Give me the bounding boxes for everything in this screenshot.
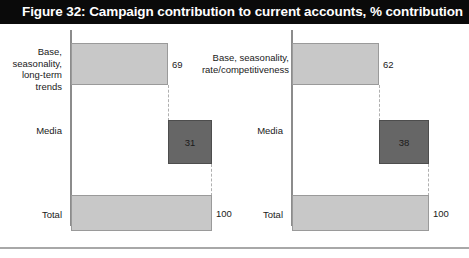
right-value-total: 100 [433,208,449,219]
right-bar-base [292,43,379,85]
cat-line: Total [235,209,283,221]
cat-line: long-term [0,69,62,81]
right-category-label-base: Base, seasonality, rate/competitiveness [197,52,289,75]
cat-line: seasonality, [0,58,62,70]
right-value-base: 62 [383,59,394,70]
cat-line: Total [0,209,62,221]
charts-area: Base, seasonality, long-term trends 69 M… [0,24,469,234]
page-title: Figure 32: Campaign contribution to curr… [22,2,463,22]
right-bar-total [292,195,429,231]
footer-divider [0,247,469,249]
right-bar-media: 38 [379,120,429,164]
chart-panel-right: Base, seasonality, rate/competitiveness … [235,24,469,234]
left-bar-total [71,195,212,231]
right-connector-base-to-media [379,85,380,121]
left-bar-media: 31 [168,120,212,164]
cat-line: trends [0,81,62,93]
cat-line: rate/competitiveness [197,64,289,76]
left-category-label-total: Total [0,209,62,221]
left-connector-base-to-media [168,85,169,121]
left-value-media: 31 [169,137,211,148]
figure-title-bar: Figure 32: Campaign contribution to curr… [0,0,469,24]
left-category-label-base: Base, seasonality, long-term trends [0,46,62,92]
right-connector-media-to-total [428,164,429,196]
left-bar-base [71,43,168,85]
figure-container: Figure 32: Campaign contribution to curr… [0,0,469,258]
right-category-label-media: Media [235,125,283,137]
right-value-media: 38 [380,137,428,148]
left-connector-media-to-total [211,164,212,196]
left-value-total: 100 [216,208,232,219]
left-category-label-media: Media [0,125,62,137]
left-value-base: 69 [172,59,183,70]
right-category-label-total: Total [235,209,283,221]
cat-line: Base, [0,46,62,58]
cat-line: Base, seasonality, [197,52,289,64]
cat-line: Media [235,125,283,137]
cat-line: Media [0,125,62,137]
